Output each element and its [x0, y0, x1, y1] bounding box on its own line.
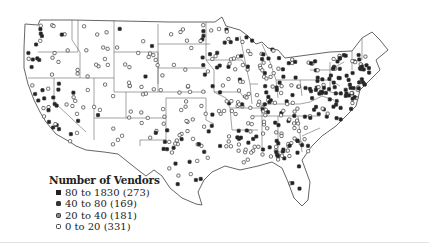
filled-square-icon — [56, 190, 61, 195]
legend-item-high: 80 to 1830 (273) — [56, 187, 160, 198]
legend-title: Number of Vendors — [49, 174, 160, 186]
legend-item-min: 0 to 20 (331) — [56, 221, 160, 232]
divider — [0, 242, 429, 243]
open-square-icon — [56, 224, 61, 229]
gray-dot-icon — [56, 213, 61, 218]
legend-item-mid: 40 to 80 (169) — [56, 198, 160, 209]
legend-item-low: 20 to 40 (181) — [56, 210, 160, 221]
legend: Number of Vendors 80 to 1830 (273) 40 to… — [49, 174, 160, 232]
filled-dot-icon — [56, 201, 61, 206]
